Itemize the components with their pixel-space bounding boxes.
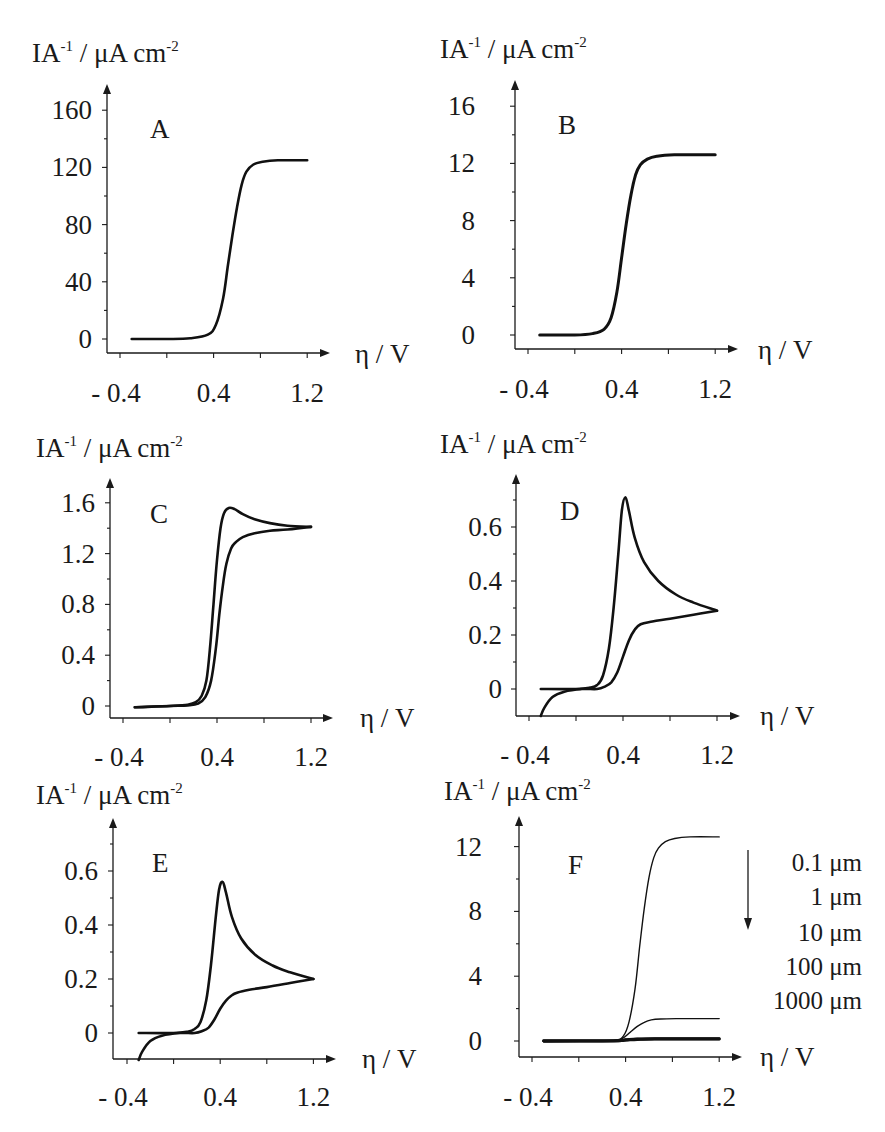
y-tick-label: 0 — [462, 320, 476, 350]
panel-letter: B — [558, 110, 576, 140]
y-axis-label-sup1: -1 — [469, 429, 482, 445]
y-axis-label-unit: / μA cm — [481, 34, 574, 64]
y-axis-label-main: IA — [32, 38, 61, 68]
x-tick-label: - 0.4 — [94, 742, 144, 772]
figure: IA-1 / μA cm-204080120160- 0.40.41.2η / … — [0, 0, 885, 1132]
y-tick-label: 0 — [79, 324, 93, 354]
x-tick-label: 0.4 — [609, 1082, 643, 1112]
x-tick-label: 1.2 — [702, 1082, 736, 1112]
y-axis-label-sup2: -2 — [166, 38, 179, 54]
y-axis-label-sup2: -2 — [170, 780, 183, 796]
y-tick-label: 0.4 — [468, 566, 502, 596]
y-axis-label-sup2: -2 — [574, 34, 587, 50]
y-tick-label: 40 — [65, 267, 92, 297]
y-tick-label: 0.4 — [61, 640, 95, 670]
y-tick-label: 0 — [85, 1018, 99, 1048]
y-axis-label-main: IA — [440, 429, 469, 459]
y-axis-label: IA-1 / μA cm-2 — [440, 34, 587, 64]
x-tick-label: 1.2 — [297, 1082, 331, 1112]
x-axis-label: η / V — [760, 1042, 815, 1072]
y-tick-label: 8 — [462, 206, 476, 236]
x-tick-label: 1.2 — [290, 378, 324, 408]
y-axis-label-main: IA — [440, 34, 469, 64]
panel-letter: E — [152, 848, 169, 878]
y-tick-label: 8 — [469, 896, 483, 926]
legend-entry: 1 μm — [810, 883, 862, 910]
y-tick-label: 160 — [52, 95, 93, 125]
y-tick-label: 0.2 — [64, 964, 98, 994]
y-axis-label-unit: / μA cm — [485, 776, 578, 806]
y-tick-label: 0 — [469, 1026, 483, 1056]
y-tick-label: 0.2 — [468, 620, 502, 650]
y-axis-label-main: IA — [36, 780, 65, 810]
y-tick-label: 80 — [65, 210, 92, 240]
y-axis-label-sup2: -2 — [170, 433, 183, 449]
x-tick-label: - 0.4 — [499, 374, 549, 404]
legend-entry: 100 μm — [785, 953, 862, 980]
panel-letter: C — [150, 499, 168, 529]
y-axis-label: IA-1 / μA cm-2 — [36, 780, 183, 810]
y-axis-label-sup1: -1 — [469, 34, 482, 50]
legend-entry: 10 μm — [798, 919, 863, 946]
panel-letter: F — [568, 850, 583, 880]
y-tick-label: 0 — [82, 691, 96, 721]
x-tick-label: 1.2 — [700, 740, 734, 770]
y-axis-label: IA-1 / μA cm-2 — [444, 776, 591, 806]
x-tick-label: 0.4 — [200, 742, 234, 772]
background — [0, 0, 885, 1132]
x-tick-label: - 0.4 — [98, 1082, 148, 1112]
legend-entry: 1000 μm — [773, 987, 863, 1014]
y-axis-label-main: IA — [36, 433, 65, 463]
x-axis-label: η / V — [760, 701, 815, 731]
y-axis-label-unit: / μA cm — [73, 38, 166, 68]
y-axis-label-main: IA — [444, 776, 473, 806]
y-tick-label: 0.4 — [64, 910, 98, 940]
x-axis-label: η / V — [355, 339, 410, 369]
x-tick-label: 0.4 — [203, 1082, 237, 1112]
x-tick-label: 0.4 — [605, 374, 639, 404]
y-tick-label: 12 — [455, 832, 482, 862]
x-tick-label: 1.2 — [698, 374, 732, 404]
y-tick-label: 1.2 — [61, 539, 95, 569]
y-tick-label: 4 — [462, 263, 476, 293]
y-tick-label: 0.6 — [468, 512, 502, 542]
x-tick-label: - 0.4 — [500, 740, 550, 770]
y-axis-label: IA-1 / μA cm-2 — [32, 38, 179, 68]
x-axis-label: η / V — [362, 1044, 417, 1074]
x-tick-label: 1.2 — [294, 742, 328, 772]
panel-letter: D — [560, 496, 580, 526]
y-tick-label: 16 — [448, 91, 475, 121]
panel-letter: A — [150, 114, 170, 144]
y-tick-label: 1.6 — [61, 488, 95, 518]
y-axis-label-sup1: -1 — [61, 38, 74, 54]
y-axis-label-sup1: -1 — [473, 776, 486, 792]
x-tick-label: - 0.4 — [503, 1082, 553, 1112]
y-axis-label-sup1: -1 — [65, 780, 78, 796]
y-tick-label: 0.8 — [61, 589, 95, 619]
y-axis-label-unit: / μA cm — [481, 429, 574, 459]
y-axis-label-sup1: -1 — [65, 433, 78, 449]
y-tick-label: 0 — [489, 674, 503, 704]
x-tick-label: 0.4 — [606, 740, 640, 770]
x-axis-label: η / V — [360, 703, 415, 733]
x-tick-label: - 0.4 — [91, 378, 141, 408]
y-tick-label: 4 — [469, 961, 483, 991]
y-axis-label-sup2: -2 — [574, 429, 587, 445]
y-axis-label-unit: / μA cm — [77, 780, 170, 810]
x-axis-label: η / V — [758, 335, 813, 365]
y-tick-label: 12 — [448, 148, 475, 178]
y-axis-label-unit: / μA cm — [77, 433, 170, 463]
y-tick-label: 0.6 — [64, 856, 98, 886]
y-axis-label: IA-1 / μA cm-2 — [36, 433, 183, 463]
y-axis-label: IA-1 / μA cm-2 — [440, 429, 587, 459]
y-tick-label: 120 — [52, 152, 93, 182]
legend-entry: 0.1 μm — [792, 849, 863, 876]
y-axis-label-sup2: -2 — [578, 776, 591, 792]
x-tick-label: 0.4 — [197, 378, 231, 408]
